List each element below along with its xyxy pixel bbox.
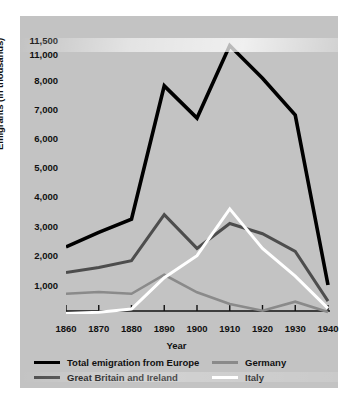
x-tick-label: 1900 bbox=[180, 323, 214, 334]
x-tick-label: 1890 bbox=[147, 323, 181, 334]
x-tick-label: 1860 bbox=[49, 323, 83, 334]
x-tick-label: 1930 bbox=[278, 323, 312, 334]
legend-swatch-icon bbox=[34, 376, 60, 379]
y-tick-label: 7,000 bbox=[12, 104, 58, 115]
legend-swatch-icon bbox=[212, 376, 238, 379]
chart-screenshot: Emigrants (in thousands) 11,50011,0008,0… bbox=[0, 0, 353, 412]
y-axis-title: Emigrants (in thousands) bbox=[0, 38, 5, 150]
legend-label: Great Britain and Ireland bbox=[67, 373, 178, 383]
y-tick-label: 4,000 bbox=[12, 191, 58, 202]
x-axis-title: Year bbox=[0, 340, 353, 351]
legend-row: Total emigration from Europe Germany bbox=[34, 358, 334, 368]
y-tick-label: 1,000 bbox=[12, 280, 58, 291]
y-tick-label: 6,000 bbox=[12, 133, 58, 144]
legend-item-italy: Italy bbox=[212, 373, 332, 383]
x-tick-label: 1880 bbox=[115, 323, 149, 334]
x-tick-label: 1910 bbox=[213, 323, 247, 334]
legend-label: Total emigration from Europe bbox=[67, 358, 199, 368]
y-tick-label: 2,000 bbox=[12, 250, 58, 261]
series-line bbox=[66, 209, 328, 314]
x-tick-label: 1870 bbox=[82, 323, 116, 334]
legend-label: Germany bbox=[245, 358, 286, 368]
legend-swatch-icon bbox=[34, 361, 60, 364]
y-tick-label: 11,000 bbox=[12, 49, 58, 60]
x-tick-label: 1940 bbox=[311, 323, 345, 334]
y-tick-label: 5,000 bbox=[12, 162, 58, 173]
y-tick-label: 11,500 bbox=[12, 35, 58, 46]
y-tick-label: 3,000 bbox=[12, 221, 58, 232]
chart-svg bbox=[66, 32, 330, 314]
x-tick-label: 1920 bbox=[246, 323, 280, 334]
legend-label: Italy bbox=[245, 373, 264, 383]
legend-item-germany: Germany bbox=[212, 358, 332, 368]
chart-legend: Total emigration from Europe Germany Gre… bbox=[34, 358, 334, 387]
plot-area bbox=[66, 32, 330, 314]
legend-item-great-britain-and-ireland: Great Britain and Ireland bbox=[34, 373, 212, 383]
legend-item-total-emigration: Total emigration from Europe bbox=[34, 358, 212, 368]
series-line bbox=[66, 215, 328, 301]
legend-row: Great Britain and Ireland Italy bbox=[34, 373, 334, 383]
legend-swatch-icon bbox=[212, 361, 238, 364]
y-tick-label: 8,000 bbox=[12, 75, 58, 86]
